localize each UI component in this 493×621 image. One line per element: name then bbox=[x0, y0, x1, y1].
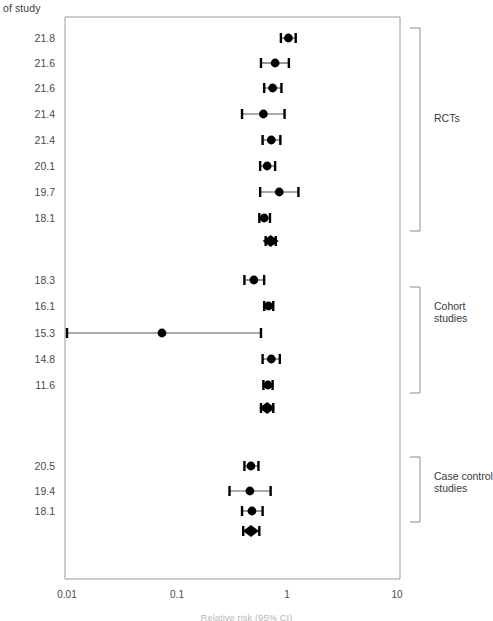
group-label-3: Case controlstudies bbox=[434, 470, 493, 495]
study-row bbox=[260, 187, 298, 197]
study-row bbox=[264, 83, 281, 93]
point-estimate-marker bbox=[263, 381, 272, 390]
point-estimate-marker bbox=[248, 507, 257, 516]
point-estimate-marker bbox=[275, 188, 284, 197]
x-tick-label: 1 bbox=[284, 589, 290, 600]
plot-frame bbox=[65, 17, 400, 579]
group-label-2: Cohortstudies bbox=[434, 300, 467, 325]
study-row bbox=[244, 275, 264, 285]
point-estimate-marker bbox=[271, 59, 280, 68]
point-estimate-marker bbox=[267, 136, 276, 145]
study-row bbox=[263, 380, 272, 390]
study-row bbox=[281, 33, 296, 43]
study-row bbox=[263, 135, 281, 145]
group-brackets bbox=[410, 28, 420, 522]
point-estimate-marker bbox=[264, 302, 273, 311]
study-row bbox=[242, 109, 285, 119]
x-tick-label: 0.1 bbox=[170, 589, 184, 600]
group-label-line: Cohort bbox=[434, 300, 467, 313]
row-label: 18.1 bbox=[9, 505, 55, 517]
row-label: 21.4 bbox=[9, 108, 55, 120]
row-label: 16.1 bbox=[9, 300, 55, 312]
group-label-line: studies bbox=[434, 482, 493, 495]
group-bracket bbox=[410, 457, 420, 522]
row-label: 19.4 bbox=[9, 485, 55, 497]
row-label: 21.4 bbox=[9, 134, 55, 146]
group-label-1: RCTs bbox=[434, 112, 460, 125]
group-label-line: RCTs bbox=[434, 112, 460, 125]
point-estimate-marker bbox=[259, 110, 268, 119]
row-label: 21.6 bbox=[9, 82, 55, 94]
study-row bbox=[260, 161, 275, 171]
point-estimate-marker bbox=[263, 162, 272, 171]
study-row bbox=[229, 486, 270, 496]
study-row bbox=[259, 213, 270, 223]
point-estimate-marker bbox=[260, 214, 269, 223]
study-row bbox=[244, 461, 258, 471]
group-label-line: Case control bbox=[434, 470, 493, 483]
summary-row bbox=[263, 235, 279, 247]
x-axis-title: Relative risk (95% CI) bbox=[201, 612, 293, 621]
summary-diamond bbox=[243, 525, 259, 537]
row-label: 11.6 bbox=[9, 379, 55, 391]
forest-plot-figure: of study 21.821.621.621.421.420.119.718.… bbox=[0, 0, 493, 621]
study-row bbox=[242, 506, 263, 516]
point-estimate-marker bbox=[247, 462, 256, 471]
row-label: 18.3 bbox=[9, 274, 55, 286]
forest-plot-canvas bbox=[0, 0, 493, 621]
point-estimate-marker bbox=[246, 487, 255, 496]
row-label: 20.1 bbox=[9, 160, 55, 172]
point-estimate-marker bbox=[284, 34, 293, 43]
point-estimate-marker bbox=[158, 329, 167, 338]
row-label: 19.7 bbox=[9, 186, 55, 198]
study-row bbox=[264, 301, 273, 311]
x-tick-label: 10 bbox=[391, 589, 402, 600]
row-label: 21.8 bbox=[9, 32, 55, 44]
group-label-line: studies bbox=[434, 312, 467, 325]
row-label: 20.5 bbox=[9, 460, 55, 472]
point-estimate-marker bbox=[267, 355, 276, 364]
row-label: 14.8 bbox=[9, 353, 55, 365]
group-bracket bbox=[410, 28, 420, 231]
row-label: 15.3 bbox=[9, 327, 55, 339]
point-estimate-marker bbox=[268, 84, 277, 93]
point-estimate-marker bbox=[249, 276, 258, 285]
group-bracket bbox=[410, 287, 420, 393]
row-label: 18.1 bbox=[9, 212, 55, 224]
forest-rows bbox=[67, 33, 298, 537]
plot-border bbox=[65, 17, 400, 579]
study-row bbox=[263, 354, 280, 364]
row-label: 21.6 bbox=[9, 57, 55, 69]
summary-row bbox=[243, 525, 259, 537]
summary-row bbox=[259, 402, 275, 414]
row-label-column-header: of study bbox=[3, 2, 41, 14]
study-row bbox=[261, 58, 289, 68]
x-tick-label: 0.01 bbox=[57, 589, 76, 600]
study-row bbox=[67, 328, 261, 338]
